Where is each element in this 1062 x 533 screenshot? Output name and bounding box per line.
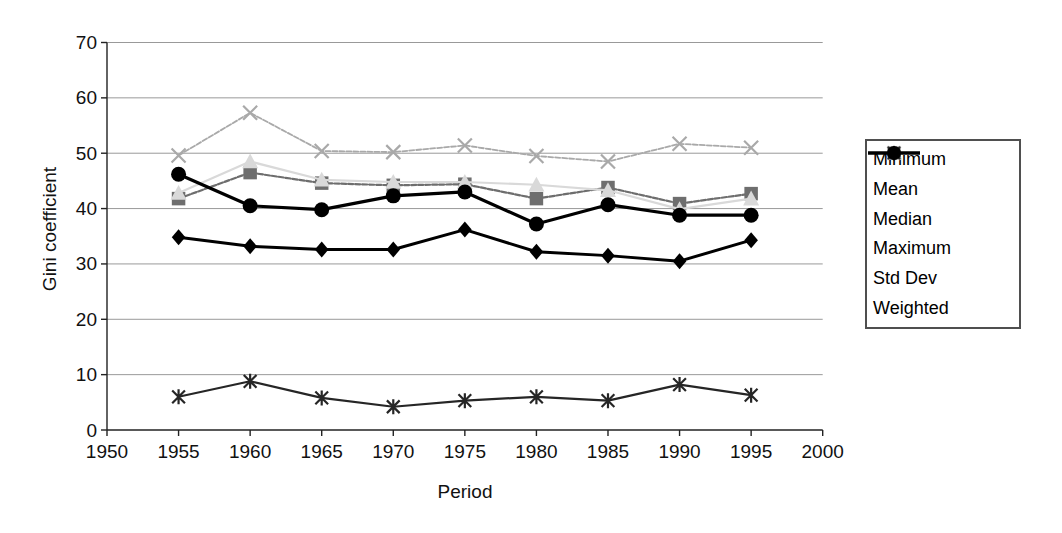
y-axis-title: Gini coefficient <box>39 166 60 291</box>
legend-label-weighted: Weighted <box>873 298 949 319</box>
legend-item-std-dev: Std Dev <box>873 268 1017 289</box>
y-tick-label-70: 70 <box>76 32 97 53</box>
legend-marker-weighted-icon <box>867 141 921 165</box>
point-minimum-1965 <box>315 242 329 258</box>
series-maximum <box>172 106 759 169</box>
point-weighted-1985 <box>600 197 615 212</box>
x-tick-label-1985: 1985 <box>587 441 629 462</box>
point-weighted-1960 <box>243 198 258 213</box>
point-minimum-1970 <box>386 242 400 258</box>
x-tick-label-1960: 1960 <box>229 441 271 462</box>
legend-label-maximum: Maximum <box>873 238 951 259</box>
y-tick-label-50: 50 <box>76 143 97 164</box>
point-minimum-1980 <box>530 244 544 260</box>
legend-label-std-dev: Std Dev <box>873 268 937 289</box>
legend-label-mean: Mean <box>873 179 918 200</box>
point-minimum-1960 <box>243 238 257 254</box>
y-tick-label-30: 30 <box>76 253 97 274</box>
x-tick-label-1995: 1995 <box>730 441 772 462</box>
point-weighted-1975 <box>457 184 472 199</box>
legend-item-weighted: Weighted <box>873 298 1017 319</box>
point-weighted-1970 <box>386 188 401 203</box>
gridlines <box>107 43 823 375</box>
data-series <box>171 106 760 414</box>
x-tick-label-1990: 1990 <box>658 441 700 462</box>
legend-item-mean: Mean <box>873 179 1017 200</box>
y-tick-label-60: 60 <box>76 87 97 108</box>
legend-item-maximum: Maximum <box>873 238 1017 259</box>
axes <box>101 43 823 437</box>
point-weighted-1965 <box>314 202 329 217</box>
x-tick-label-1950: 1950 <box>86 441 128 462</box>
series-minimum <box>172 222 758 270</box>
x-tick-label-1980: 1980 <box>515 441 557 462</box>
y-tick-label-10: 10 <box>76 364 97 385</box>
point-median-1960 <box>242 154 258 169</box>
legend-item-median: Median <box>873 209 1017 230</box>
point-minimum-1990 <box>673 253 687 269</box>
x-axis-title: Period <box>438 481 493 502</box>
point-minimum-1975 <box>458 222 472 238</box>
series-std-dev <box>172 374 757 414</box>
y-tick-label-20: 20 <box>76 309 97 330</box>
x-tick-label-1955: 1955 <box>157 441 199 462</box>
point-weighted-1995 <box>744 208 759 223</box>
chart-legend: MinimumMeanMedianMaximumStd DevWeighted <box>865 139 1021 329</box>
x-tick-label-1970: 1970 <box>372 441 414 462</box>
point-weighted-1955 <box>171 167 186 182</box>
point-weighted-1980 <box>529 217 544 232</box>
point-weighted-1990 <box>672 208 687 223</box>
x-tick-label-1965: 1965 <box>301 441 343 462</box>
point-mean-1980 <box>530 192 544 206</box>
point-maximum-1955 <box>172 148 186 162</box>
legend-label-median: Median <box>873 209 932 230</box>
y-tick-label-0: 0 <box>86 420 97 441</box>
point-minimum-1955 <box>172 229 186 245</box>
chart-canvas: 0102030405060701950195519601965197019751… <box>0 0 1062 533</box>
point-maximum-1985 <box>601 155 615 169</box>
point-minimum-1995 <box>744 232 758 248</box>
y-tick-label-40: 40 <box>76 198 97 219</box>
point-minimum-1985 <box>601 248 615 264</box>
x-tick-label-1975: 1975 <box>444 441 486 462</box>
point-maximum-1960 <box>243 106 257 120</box>
x-tick-label-2000: 2000 <box>802 441 844 462</box>
